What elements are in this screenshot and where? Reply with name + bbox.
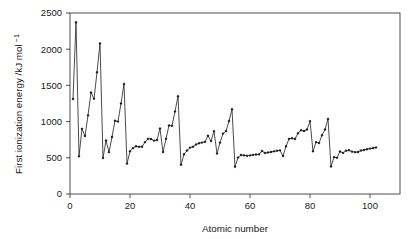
y-tick-label: 2000 xyxy=(41,44,62,55)
y-axis-title: First ionization energy /kJ mol −1 xyxy=(12,34,24,174)
x-tick-label: 80 xyxy=(305,200,316,211)
x-tick-label: 40 xyxy=(185,200,196,211)
ionization-energy-line-chart: 05001000150020002500 020406080100 Atomic… xyxy=(0,0,419,239)
chart-figure: 05001000150020002500 020406080100 Atomic… xyxy=(0,0,419,239)
x-tick-label: 100 xyxy=(362,200,378,211)
y-tick-label: 0 xyxy=(57,188,62,199)
y-tick-label: 2500 xyxy=(41,7,62,18)
y-tick-label: 1500 xyxy=(41,80,62,91)
chart-background xyxy=(0,0,419,239)
x-tick-label: 20 xyxy=(125,200,136,211)
y-tick-label: 1000 xyxy=(41,116,62,127)
x-tick-label: 60 xyxy=(245,200,256,211)
svg-text:First ionization energy /kJ mo: First ionization energy /kJ mol −1 xyxy=(12,34,24,174)
y-tick-label: 500 xyxy=(46,152,62,163)
x-axis-title: Atomic number xyxy=(202,223,269,234)
x-tick-label: 0 xyxy=(67,200,72,211)
